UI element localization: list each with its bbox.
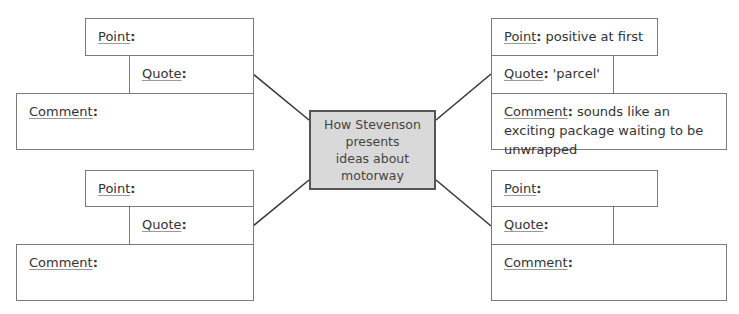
quote-label: Quote	[504, 66, 544, 81]
comment-label: Comment	[29, 104, 93, 119]
bottom-left-quote-box[interactable]: Quote:	[129, 206, 254, 245]
bottom-right-quote-box[interactable]: Quote:	[491, 206, 614, 245]
quote-label: Quote	[142, 66, 182, 81]
central-topic-line: presents	[311, 133, 434, 150]
quote-label: Quote	[504, 217, 544, 232]
point-label: Point	[504, 181, 536, 196]
top-right-quote-box[interactable]: Quote:'parcel'	[491, 55, 614, 94]
central-topic-line: motorway	[311, 167, 434, 184]
top-left-comment-box[interactable]: Comment:	[16, 93, 254, 150]
top-left-quote-box[interactable]: Quote:	[129, 55, 254, 94]
central-topic-box: How Stevenson presents ideas about motor…	[309, 110, 436, 190]
central-topic-line: How Stevenson	[311, 116, 434, 133]
bottom-right-comment-box[interactable]: Comment:	[491, 244, 727, 301]
central-topic-line: ideas about	[311, 150, 434, 167]
top-right-point-box[interactable]: Point:positive at first	[491, 18, 658, 56]
comment-label: Comment	[29, 255, 93, 270]
quote-label: Quote	[142, 217, 182, 232]
point-value: positive at first	[545, 29, 643, 44]
point-label: Point	[98, 29, 130, 44]
bottom-left-point-box[interactable]: Point:	[85, 170, 254, 207]
comment-label: Comment	[504, 104, 568, 119]
bottom-right-point-box[interactable]: Point:	[491, 170, 658, 207]
comment-label: Comment	[504, 255, 568, 270]
top-right-comment-box[interactable]: Comment:sounds like an exciting package …	[491, 93, 727, 150]
top-left-point-box[interactable]: Point:	[85, 18, 254, 56]
bottom-left-comment-box[interactable]: Comment:	[16, 244, 254, 301]
point-label: Point	[504, 29, 536, 44]
quote-value: 'parcel'	[553, 66, 600, 81]
point-label: Point	[98, 181, 130, 196]
